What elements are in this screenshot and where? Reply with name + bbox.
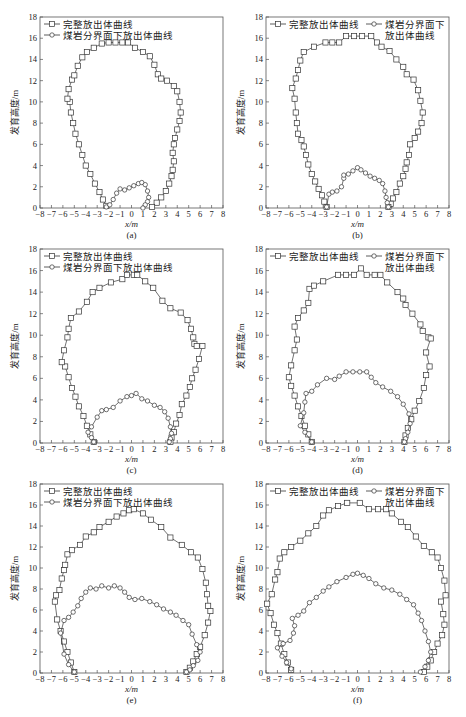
x-tick-label: 8 (221, 209, 225, 219)
legend-entry-inner: 煤岩分界面下放出体曲线 (44, 497, 173, 508)
y-tick-label: 2 (259, 416, 263, 426)
circle-marker (291, 631, 295, 635)
x-axis: −8−7−6−5−4−3−2−1012345678 (261, 440, 451, 454)
x-tick-label: 0 (129, 444, 133, 454)
circle-marker (92, 440, 96, 444)
square-marker (106, 519, 111, 524)
square-marker (428, 336, 433, 341)
circle-marker (374, 380, 378, 384)
circle-marker (79, 596, 83, 600)
x-tick-label: 7 (435, 674, 439, 684)
square-marker (179, 542, 184, 547)
x-tick-label: −4 (81, 209, 91, 219)
circle-marker (145, 189, 149, 193)
square-marker (65, 96, 70, 101)
square-marker (321, 513, 326, 518)
y-tick-label: 12 (29, 76, 38, 86)
x-tick-label: 8 (447, 444, 451, 454)
circle-marker (190, 632, 194, 636)
square-marker (343, 272, 348, 277)
panel-caption: (a) (127, 230, 137, 240)
circle-marker (84, 590, 88, 594)
square-marker (191, 335, 196, 340)
circle-marker (315, 383, 319, 387)
square-marker (311, 44, 316, 49)
circle-marker (184, 670, 188, 674)
y-tick-label: 10 (29, 330, 38, 340)
y-tick-label: 0 (33, 438, 37, 448)
circle-marker (398, 592, 402, 596)
legend-entry-full: 完整放出体曲线 (44, 486, 133, 497)
x-tick-label: −1 (116, 444, 125, 454)
legend-square-icon (50, 254, 55, 259)
square-marker (330, 40, 335, 45)
circle-marker (423, 665, 427, 669)
x-tick-label: −7 (47, 674, 56, 684)
chart-panel-d: −8−7−6−5−4−3−2−1012345678x/m(d)024681012… (235, 244, 451, 475)
circle-marker (89, 425, 93, 429)
square-marker (114, 514, 119, 519)
square-marker (275, 570, 280, 575)
square-marker (159, 76, 164, 81)
circle-marker (162, 410, 166, 414)
square-marker (80, 55, 85, 60)
y-tick-label: 0 (33, 668, 37, 678)
legend-label: 完整放出体曲线 (63, 251, 133, 262)
x-tick-label: 8 (447, 209, 451, 219)
y-tick-label: 6 (33, 605, 37, 615)
circle-marker (118, 586, 122, 590)
legend-entry-full: 完整放出体曲线 (44, 19, 133, 30)
circle-marker (71, 610, 75, 614)
square-marker (275, 631, 280, 636)
square-marker (427, 364, 432, 369)
legend: 完整放出体曲线煤岩分界面下放出体曲线 (44, 251, 173, 273)
legend-label: 煤岩分界面下 (385, 486, 445, 497)
square-marker (178, 310, 183, 315)
x-tick-label: 6 (424, 209, 428, 219)
square-marker (55, 617, 60, 622)
x-tick-label: 4 (175, 209, 180, 219)
y-tick-label: 2 (33, 182, 37, 192)
square-marker (91, 45, 96, 50)
y-axis-label: 发育高度/m (9, 90, 20, 136)
y-tick-label: 18 (255, 479, 264, 489)
x-tick-label: 1 (141, 444, 145, 454)
circle-marker (416, 611, 420, 615)
square-marker (184, 393, 189, 398)
y-tick-label: 16 (255, 266, 264, 276)
square-marker (323, 40, 328, 45)
circle-marker (324, 376, 328, 380)
circle-marker (290, 616, 294, 620)
square-marker (121, 511, 126, 516)
square-marker (84, 299, 89, 304)
circle-marker (140, 397, 144, 401)
legend-label: 煤岩分界面下放出体曲线 (63, 30, 173, 41)
plot-frame (266, 484, 449, 673)
y-tick-label: 2 (33, 647, 37, 657)
circle-marker (161, 607, 165, 611)
circle-marker (143, 182, 147, 186)
y-tick-label: 18 (255, 244, 264, 254)
square-marker (152, 62, 157, 67)
square-marker (294, 337, 299, 342)
circle-marker (122, 590, 126, 594)
square-marker (53, 593, 58, 598)
square-marker (419, 121, 424, 126)
legend-circle-icon (372, 254, 376, 258)
y-tick-label: 4 (33, 626, 38, 636)
square-marker (167, 181, 172, 186)
chart-panel-a: −8−7−6−5−4−3−2−1012345678x/m(a)024681012… (9, 12, 225, 240)
square-marker (337, 40, 342, 45)
x-tick-label: 2 (152, 674, 156, 684)
legend-label: 完整放出体曲线 (289, 251, 359, 262)
square-marker (168, 535, 173, 540)
circle-marker (335, 189, 339, 193)
x-tick-label: 7 (209, 444, 213, 454)
circle-marker (419, 618, 423, 622)
square-marker (172, 135, 177, 140)
square-marker (412, 408, 417, 413)
x-tick-label: 8 (447, 674, 451, 684)
square-marker (295, 67, 300, 72)
square-marker (301, 49, 306, 54)
square-marker (268, 611, 273, 616)
